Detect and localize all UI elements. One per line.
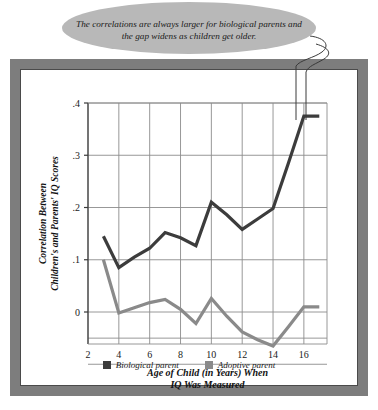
- svg-text:8: 8: [178, 349, 183, 360]
- svg-text:IQ Was Measured: IQ Was Measured: [169, 379, 245, 390]
- chart-legend: Biological parent Adoptive parent: [10, 360, 368, 370]
- svg-text:10: 10: [206, 349, 216, 360]
- legend-item-biological: Biological parent: [103, 360, 179, 370]
- svg-text:Correlation Between: Correlation Between: [38, 183, 48, 264]
- legend-item-adoptive: Adoptive parent: [205, 360, 275, 370]
- svg-text:6: 6: [147, 349, 152, 360]
- svg-text:.1: .1: [73, 254, 81, 265]
- svg-text:.3: .3: [73, 150, 81, 161]
- callout-text: The correlations are always larger for b…: [62, 7, 316, 53]
- svg-text:0: 0: [75, 307, 80, 318]
- legend-swatch-biological: [103, 361, 111, 369]
- legend-label-adoptive: Adoptive parent: [218, 360, 275, 370]
- svg-text:2: 2: [86, 349, 91, 360]
- svg-text:4: 4: [116, 349, 121, 360]
- svg-text:12: 12: [237, 349, 247, 360]
- legend-label-biological: Biological parent: [116, 360, 179, 370]
- svg-text:.2: .2: [73, 202, 81, 213]
- svg-text:16: 16: [299, 349, 309, 360]
- svg-text:Children's and Parents' IQ Sco: Children's and Parents' IQ Scores: [50, 156, 60, 291]
- iq-correlation-line-chart: 0.1.2.3.4246810121416Age of Child (in Ye…: [10, 59, 368, 396]
- svg-text:.4: .4: [73, 98, 81, 109]
- svg-text:14: 14: [268, 349, 278, 360]
- chart-plot-container: 0.1.2.3.4246810121416Age of Child (in Ye…: [10, 59, 368, 396]
- legend-swatch-adoptive: [205, 361, 213, 369]
